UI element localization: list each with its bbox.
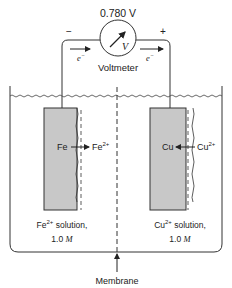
positive-terminal-sign: + <box>160 26 166 37</box>
fe-concentration-label: 1.0 M <box>51 234 73 244</box>
voltmeter-dial-icon <box>100 20 136 56</box>
voltmeter-label: Voltmeter <box>98 62 138 73</box>
negative-terminal-sign: − <box>66 26 72 37</box>
cu-electrode-label: Cu <box>162 142 174 152</box>
left-wire <box>62 40 100 108</box>
fe-electrode-label: Fe <box>57 142 68 152</box>
cu-solution-label: Cu2+ solution, <box>154 219 206 230</box>
electron-right-label: e− <box>146 52 154 63</box>
right-wire <box>136 40 170 108</box>
fe-solution-label: Fe2+ solution, <box>37 219 88 230</box>
cu-ion-label: Cu2+ <box>197 141 216 152</box>
fe-ion-label: Fe2+ <box>92 141 110 152</box>
solution-surface <box>10 95 222 97</box>
galvanic-cell-diagram: 0.780 V − + V Voltmeter e− e− Fe Fe2+ Cu… <box>0 0 232 288</box>
voltage-reading: 0.780 V <box>100 7 136 19</box>
cu-concentration-label: 1.0 M <box>169 234 191 244</box>
voltmeter: V <box>100 20 136 56</box>
copper-electrode <box>150 108 194 210</box>
iron-electrode <box>44 108 81 210</box>
membrane-label: Membrane <box>95 276 138 286</box>
electron-left-label: e− <box>77 52 85 63</box>
